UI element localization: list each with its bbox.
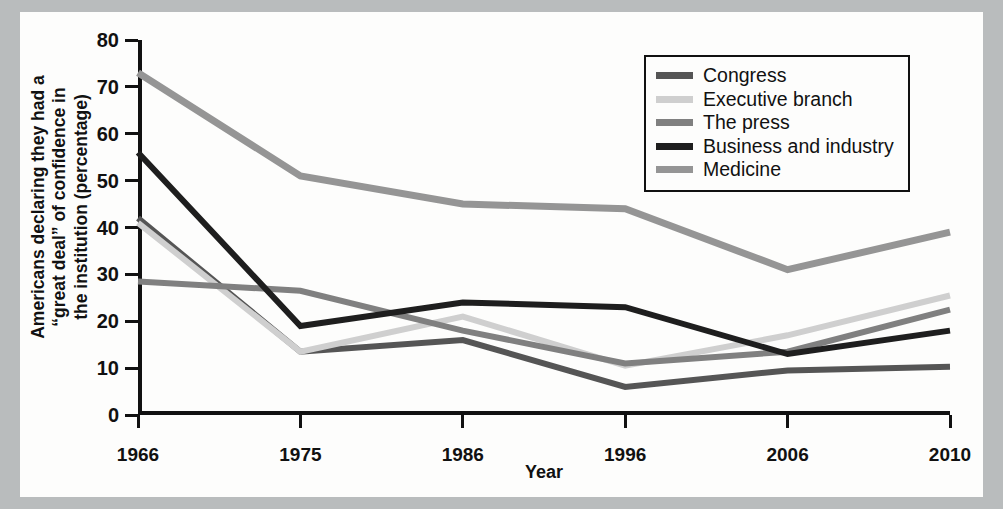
legend-swatch-icon <box>656 166 693 173</box>
x-tick: 2006 <box>786 415 789 428</box>
x-tick: 1996 <box>624 415 627 428</box>
y-axis-title: Americans declaring they had a “great de… <box>20 12 100 402</box>
x-tick: 1975 <box>299 415 302 428</box>
x-axis-title: Year <box>138 462 950 483</box>
y-tick-label: 70 <box>97 75 119 98</box>
legend-swatch-icon <box>656 96 693 103</box>
y-tick-label: 60 <box>97 122 119 145</box>
x-tick: 1966 <box>137 415 140 428</box>
legend-swatch-icon <box>656 143 693 150</box>
legend-swatch-icon <box>656 72 693 79</box>
y-tick: 80 <box>125 39 138 42</box>
y-tick-label: 80 <box>97 29 119 52</box>
legend-label: Business and industry <box>703 137 894 157</box>
y-tick: 70 <box>125 85 138 88</box>
legend-item[interactable]: Business and industry <box>656 135 894 159</box>
y-tick-label: 0 <box>108 404 119 427</box>
legend-swatch-icon <box>656 119 693 126</box>
y-axis-title-line-2: “great deal” of confidence in <box>49 75 70 339</box>
legend-item[interactable]: The press <box>656 111 894 135</box>
y-tick: 60 <box>125 132 138 135</box>
y-tick-label: 40 <box>97 216 119 239</box>
legend-item[interactable]: Congress <box>656 64 894 88</box>
y-tick: 30 <box>125 273 138 276</box>
y-tick-label: 20 <box>97 310 119 333</box>
legend-label: Executive branch <box>703 90 853 110</box>
chart-legend: CongressExecutive branchThe pressBusines… <box>644 55 910 192</box>
y-tick: 50 <box>125 179 138 182</box>
y-tick-label: 10 <box>97 357 119 380</box>
y-tick-label: 50 <box>97 169 119 192</box>
y-tick: 10 <box>125 367 138 370</box>
legend-label: Medicine <box>703 160 781 180</box>
x-tick: 1986 <box>461 415 464 428</box>
chart-figure: Americans declaring they had a “great de… <box>20 12 983 497</box>
legend-label: The press <box>703 113 790 133</box>
x-tick: 2010 <box>949 415 952 428</box>
y-axis-title-line-3: the institution (percentage) <box>71 75 92 339</box>
legend-item[interactable]: Executive branch <box>656 88 894 112</box>
y-tick-label: 30 <box>97 263 119 286</box>
legend-label: Congress <box>703 66 786 86</box>
legend-item[interactable]: Medicine <box>656 158 894 182</box>
y-tick: 20 <box>125 320 138 323</box>
y-axis-title-line-1: Americans declaring they had a <box>28 75 49 339</box>
y-tick: 40 <box>125 226 138 229</box>
